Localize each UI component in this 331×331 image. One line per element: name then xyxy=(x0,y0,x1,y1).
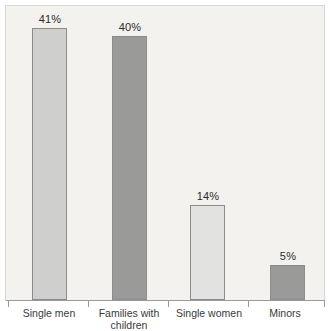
bars-layer: 41% 40% 14% 5% xyxy=(5,5,325,301)
axis-tick-2 xyxy=(168,301,169,307)
category-label-minors: Minors xyxy=(245,308,325,320)
axis-tick-3 xyxy=(248,301,249,307)
category-labels: Single men Families with children Single… xyxy=(5,308,325,331)
value-label-minors: 5% xyxy=(267,250,309,262)
value-label-families-with-children: 40% xyxy=(109,21,151,33)
value-label-single-women: 14% xyxy=(187,190,229,202)
bar-single-men xyxy=(32,28,67,300)
axis-tick-1 xyxy=(88,301,89,307)
value-label-single-men: 41% xyxy=(29,13,71,25)
bar-chart: 41% 40% 14% 5% Single men Families with … xyxy=(0,0,331,331)
bar-minors xyxy=(270,265,305,300)
category-label-single-women: Single women xyxy=(165,308,253,320)
category-label-families-with-children: Families with children xyxy=(85,308,173,331)
axis-tick-end xyxy=(324,301,325,307)
x-axis-line xyxy=(6,300,325,301)
bar-families-with-children xyxy=(112,36,147,300)
category-label-single-men: Single men xyxy=(5,308,93,320)
bar-single-women xyxy=(190,205,225,300)
axis-tick-start xyxy=(8,301,9,307)
